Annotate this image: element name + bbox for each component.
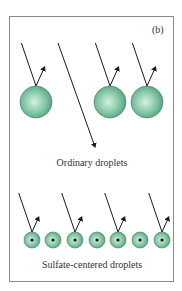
panel-label: (b) — [152, 24, 164, 36]
diagram-canvas: (b) Ordinary droplets Sulfate-centered d… — [0, 0, 182, 291]
droplet-circle — [131, 86, 163, 118]
sulfate-nucleus-dot — [95, 238, 98, 241]
droplet-circle — [94, 86, 126, 118]
droplet — [45, 232, 61, 248]
sulfate-nucleus-dot — [160, 238, 163, 241]
sulfate-nucleus-dot — [73, 238, 76, 241]
ordinary-droplets-label: Ordinary droplets — [57, 157, 128, 168]
sulfate-nucleus-dot — [116, 238, 119, 241]
sulfate-nucleus-dot — [51, 238, 54, 241]
sulfate-nucleus-dot — [30, 238, 33, 241]
sulfate-nucleus-dot — [138, 238, 141, 241]
droplet — [132, 232, 148, 248]
droplet — [89, 232, 105, 248]
sulfate-droplets-label: Sulfate-centered droplets — [42, 259, 142, 270]
droplet-circle — [20, 86, 52, 118]
